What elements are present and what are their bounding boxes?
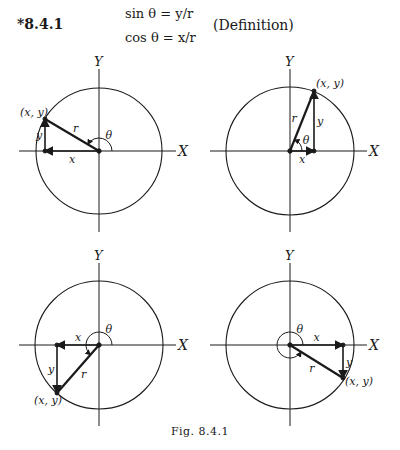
y-axis-label: Y bbox=[285, 54, 295, 69]
panel-quadrant-1: XY(x, y)rxyθ bbox=[210, 54, 380, 232]
figure-caption: Fig. 8.4.1 bbox=[0, 425, 400, 438]
radius-label: r bbox=[292, 112, 298, 125]
theta-label: θ bbox=[303, 134, 310, 147]
radius-line bbox=[57, 345, 99, 393]
x-leg-label: x bbox=[299, 153, 306, 166]
radius-label: r bbox=[309, 362, 315, 375]
panel-quadrant-2: XY(x, y)rxyθ bbox=[19, 54, 189, 232]
x-leg-label: x bbox=[69, 153, 76, 166]
x-axis-label: X bbox=[368, 143, 380, 159]
y-leg-label: y bbox=[345, 356, 353, 369]
point-label: (x, y) bbox=[316, 77, 344, 90]
point-label: (x, y) bbox=[34, 394, 62, 407]
foot-dot bbox=[312, 149, 316, 153]
y-axis-label: Y bbox=[94, 248, 104, 263]
foot-dot bbox=[341, 343, 345, 347]
origin-dot bbox=[288, 149, 292, 153]
origin-dot bbox=[97, 343, 101, 347]
x-leg-label: x bbox=[75, 331, 82, 344]
theta-label: θ bbox=[106, 323, 113, 336]
x-axis-label: X bbox=[368, 337, 380, 353]
point-label: (x, y) bbox=[20, 106, 48, 119]
y-leg-label: y bbox=[47, 363, 55, 376]
panel-quadrant-4: XY(x, y)rxyθ bbox=[210, 248, 380, 426]
angle-arc bbox=[294, 140, 302, 151]
radius-label: r bbox=[81, 368, 87, 381]
figure: XY(x, y)rxyθXY(x, y)rxyθXY(x, y)rxyθXY(x… bbox=[0, 0, 400, 450]
y-leg-label: y bbox=[35, 129, 43, 142]
y-leg-label: y bbox=[316, 115, 324, 128]
radius-line bbox=[290, 345, 343, 378]
x-axis-label: X bbox=[177, 143, 189, 159]
point-label: (x, y) bbox=[345, 375, 373, 388]
y-axis-label: Y bbox=[285, 248, 295, 263]
foot-dot bbox=[55, 343, 59, 347]
panel-quadrant-3: XY(x, y)rxyθ bbox=[19, 248, 189, 426]
x-axis-label: X bbox=[177, 337, 189, 353]
theta-label: θ bbox=[297, 323, 304, 336]
theta-label: θ bbox=[106, 129, 113, 142]
origin-dot bbox=[97, 149, 101, 153]
radius-line bbox=[45, 119, 99, 151]
foot-dot bbox=[43, 149, 47, 153]
x-leg-label: x bbox=[314, 331, 321, 344]
origin-dot bbox=[288, 343, 292, 347]
y-axis-label: Y bbox=[94, 54, 104, 69]
radius-label: r bbox=[73, 122, 79, 135]
